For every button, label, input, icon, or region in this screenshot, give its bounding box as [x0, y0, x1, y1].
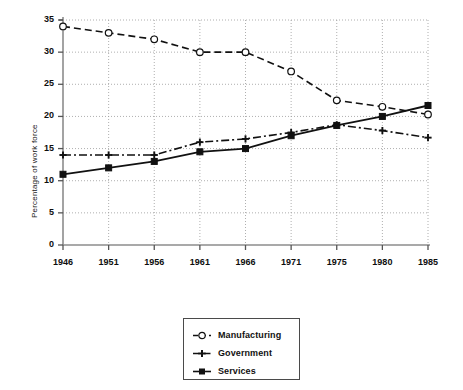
x-tick-label: 1961	[180, 257, 220, 267]
data-point-open-circle-icon	[425, 111, 432, 118]
data-point-filled-square-icon	[151, 158, 157, 164]
data-point-filled-square-icon	[334, 122, 340, 128]
x-tick-label: 1975	[317, 257, 357, 267]
chart-legend: ManufacturingGovernmentServices	[183, 318, 300, 380]
legend-item-services: Services	[192, 364, 256, 378]
data-point-open-circle-icon	[379, 103, 386, 110]
data-point-filled-square-icon	[425, 103, 431, 109]
legend-label: Manufacturing	[218, 330, 281, 340]
y-tick-label: 20	[32, 110, 54, 120]
open-circle-icon	[192, 330, 212, 341]
data-point-filled-square-icon	[379, 113, 385, 119]
y-tick-label: 10	[32, 175, 54, 185]
data-point-open-circle-icon	[105, 30, 112, 37]
y-tick-label: 0	[32, 239, 54, 249]
legend-item-manufacturing: Manufacturing	[192, 328, 281, 342]
data-point-plus-icon	[151, 151, 158, 158]
data-point-open-circle-icon	[288, 68, 295, 75]
data-point-plus-icon	[105, 151, 112, 158]
x-tick-label: 1980	[362, 257, 402, 267]
data-point-filled-square-icon	[60, 171, 66, 177]
data-point-open-circle-icon	[60, 23, 67, 30]
x-tick-label: 1985	[408, 257, 448, 267]
series-manufacturing	[60, 23, 432, 118]
x-tick-label: 1971	[271, 257, 311, 267]
data-point-open-circle-icon	[197, 49, 204, 56]
data-point-plus-icon	[424, 134, 431, 141]
plus-marker-icon	[192, 348, 212, 359]
y-axis-title: Percentage of work force	[30, 124, 39, 218]
data-point-plus-icon	[242, 135, 249, 142]
x-tick-label: 1966	[226, 257, 266, 267]
y-tick-label: 30	[32, 46, 54, 56]
y-tick-label: 35	[32, 14, 54, 24]
data-point-filled-square-icon	[197, 149, 203, 155]
legend-label: Services	[218, 366, 256, 376]
x-tick-label: 1956	[134, 257, 174, 267]
chart-figure: Percentage of work force 05101520253035 …	[0, 0, 463, 390]
data-point-plus-icon	[196, 139, 203, 146]
legend-label: Government	[218, 348, 272, 358]
y-tick-label: 25	[32, 78, 54, 88]
data-point-plus-icon	[379, 127, 386, 134]
data-point-plus-icon	[59, 151, 66, 158]
y-tick-label: 5	[32, 207, 54, 217]
y-tick-label: 15	[32, 143, 54, 153]
x-tick-label: 1951	[89, 257, 129, 267]
data-point-filled-square-icon	[106, 165, 112, 171]
data-point-open-circle-icon	[151, 36, 158, 43]
data-point-filled-square-icon	[243, 146, 249, 152]
data-point-filled-square-icon	[288, 133, 294, 139]
filled-square-icon	[192, 366, 212, 377]
data-point-open-circle-icon	[333, 97, 340, 104]
data-point-open-circle-icon	[242, 49, 249, 56]
x-tick-label: 1946	[43, 257, 83, 267]
legend-item-government: Government	[192, 346, 272, 360]
